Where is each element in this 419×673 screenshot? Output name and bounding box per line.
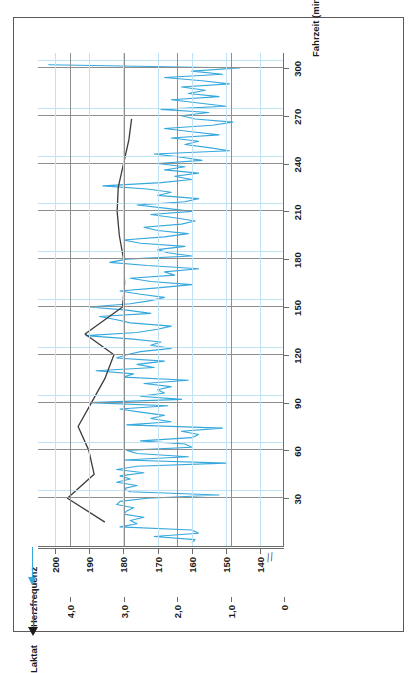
heart-rate-tick [191, 549, 192, 554]
x-axis-title: Fahrzeit (min) [310, 0, 321, 57]
lactate-axis-arrow-head [28, 627, 38, 636]
x-axis-tick [284, 354, 289, 355]
x-axis-tick-label: 120 [292, 347, 303, 363]
plot-area [38, 53, 284, 547]
heart-rate-axis-arrow-head [27, 577, 35, 585]
heart-rate-tick-label: 170 [152, 557, 163, 587]
lactate-tick-label: 2,0 [171, 605, 182, 637]
gridline-vertical [38, 449, 283, 450]
heart-rate-tick [123, 549, 124, 554]
heart-rate-tick-label: 140 [254, 557, 265, 587]
gridline-horizontal-lactate [70, 53, 71, 546]
heart-rate-tick-label: 180 [117, 557, 128, 587]
heart-rate-tick [157, 549, 158, 554]
heart-rate-tick-label: 160 [186, 557, 197, 587]
heart-rate-tick-label: 150 [220, 557, 231, 587]
gridline-vertical-blue [38, 490, 283, 491]
gridline-horizontal-lactate [177, 53, 178, 546]
x-axis-tick [284, 498, 289, 499]
gridline-vertical [38, 66, 283, 67]
x-axis-tick [284, 115, 289, 116]
x-axis-tick-label: 150 [292, 300, 303, 316]
gridline-vertical [38, 497, 283, 498]
gridline-vertical [38, 401, 283, 402]
gridline-vertical [38, 114, 283, 115]
x-axis-tick-label: 90 [292, 398, 303, 409]
gridline-horizontal-heart-rate [260, 53, 261, 546]
gridline-horizontal-heart-rate [157, 53, 158, 546]
gridline-vertical-blue [38, 251, 283, 252]
x-axis-tick-label: 300 [292, 61, 303, 77]
gridline-horizontal-heart-rate [55, 53, 56, 546]
lactate-tick-label: 3,0 [118, 605, 129, 637]
heart-rate-tick [89, 549, 90, 554]
lactate-axis-title: Laktat [28, 645, 39, 673]
gridline-vertical-blue [38, 298, 283, 299]
x-axis-tick [284, 163, 289, 164]
axis-break-symbol: // [264, 548, 275, 565]
x-axis-tick-label: 270 [292, 108, 303, 124]
gridline-vertical-blue [38, 155, 283, 156]
gridline-vertical [38, 353, 283, 354]
x-axis-tick-label: 60 [292, 446, 303, 457]
x-axis-tick [284, 211, 289, 212]
gridline-vertical-blue [38, 346, 283, 347]
lactate-tick [230, 597, 231, 602]
gridline-vertical [38, 210, 283, 211]
gridline-horizontal-lactate [230, 53, 231, 546]
lactate-axis-arrow-line [33, 593, 34, 627]
gridline-horizontal-heart-rate [225, 53, 226, 546]
x-axis-tick [284, 67, 289, 68]
gridline-vertical-blue [38, 442, 283, 443]
gridline-horizontal-heart-rate [191, 53, 192, 546]
x-axis-tick [284, 450, 289, 451]
gridline-vertical-blue [38, 394, 283, 395]
heart-rate-axis-line [38, 548, 284, 549]
gridline-vertical-blue [38, 59, 283, 60]
figure-frame: 306090120150180210240270300 Fahrzeit (mi… [13, 17, 404, 632]
x-axis-tick-label: 210 [292, 204, 303, 220]
lactate-tick [70, 597, 71, 602]
heart-rate-tick-label: 190 [83, 557, 94, 587]
gridline-vertical [38, 162, 283, 163]
lactate-tick-label: 0 [278, 605, 289, 637]
lactate-tick-label: 4,0 [64, 605, 75, 637]
gridline-horizontal-heart-rate [123, 53, 124, 546]
lactate-tick-label: 1,0 [225, 605, 236, 637]
rotated-chart-canvas: 306090120150180210240270300 Fahrzeit (mi… [24, 25, 394, 625]
heart-rate-tick [55, 549, 56, 554]
gridline-horizontal-heart-rate [89, 53, 90, 546]
x-axis-tick-label: 30 [292, 493, 303, 504]
x-axis-tick [284, 402, 289, 403]
gridline-vertical-blue [38, 107, 283, 108]
heart-rate-axis-arrow-line [32, 547, 33, 577]
gridline-vertical [38, 305, 283, 306]
x-axis-tick-label: 240 [292, 156, 303, 172]
x-axis-tick [284, 306, 289, 307]
x-axis-tick [284, 259, 289, 260]
x-axis-tick-label: 180 [292, 252, 303, 268]
gridline-vertical-blue [38, 203, 283, 204]
heart-rate-tick [260, 549, 261, 554]
gridline-vertical [38, 258, 283, 259]
heart-rate-tick-label: 200 [49, 557, 60, 587]
lactate-tick [177, 597, 178, 602]
lactate-tick [284, 597, 285, 602]
lactate-tick [123, 597, 124, 602]
heart-rate-tick [225, 549, 226, 554]
